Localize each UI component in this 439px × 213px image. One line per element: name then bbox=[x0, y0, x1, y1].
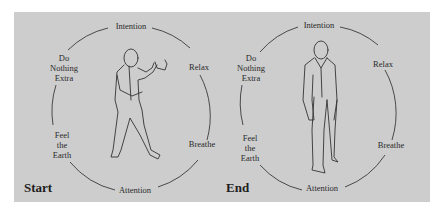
svg-text:Extra: Extra bbox=[242, 73, 261, 83]
label-breathe: Breathe bbox=[378, 140, 405, 150]
label-attention: Attention bbox=[119, 185, 152, 195]
person-standing-figure bbox=[303, 41, 338, 173]
label-relax: Relax bbox=[189, 62, 210, 72]
svg-text:Nothing: Nothing bbox=[50, 63, 79, 73]
svg-text:the: the bbox=[57, 140, 68, 150]
caption-end: End bbox=[226, 180, 250, 195]
label-breathe: Breathe bbox=[189, 139, 216, 149]
svg-text:Earth: Earth bbox=[241, 153, 260, 163]
label-feel-the-earth: Feel bbox=[243, 133, 258, 143]
label-relax: Relax bbox=[373, 59, 394, 69]
label-do-nothing-extra: Do bbox=[59, 53, 69, 63]
diagram-end: Intention Do Nothing Extra Relax Feel th… bbox=[226, 20, 404, 195]
tai-chi-diagrams: Intention Do Nothing Extra Relax Feel th… bbox=[0, 0, 439, 213]
svg-text:the: the bbox=[245, 143, 256, 153]
label-attention: Attention bbox=[306, 183, 339, 193]
label-feel-the-earth: Feel bbox=[55, 130, 70, 140]
svg-text:Earth: Earth bbox=[53, 150, 72, 160]
svg-text:Nothing: Nothing bbox=[237, 63, 266, 73]
cycle-circle-arc bbox=[152, 28, 190, 48]
label-do-nothing-extra: Do bbox=[246, 53, 256, 63]
caption-start: Start bbox=[24, 180, 53, 195]
diagram-start: Intention Do Nothing Extra Relax Feel th… bbox=[24, 21, 215, 195]
label-intention: Intention bbox=[116, 21, 147, 31]
svg-text:Extra: Extra bbox=[55, 73, 74, 83]
label-intention: Intention bbox=[304, 20, 335, 30]
person-stance-figure bbox=[111, 49, 167, 159]
